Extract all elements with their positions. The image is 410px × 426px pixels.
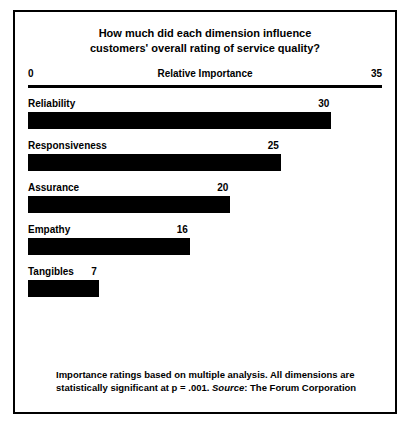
bar-value: 30 (318, 98, 331, 109)
bar-value: 16 (177, 224, 190, 235)
bar-meta: Responsiveness 25 (28, 140, 382, 154)
chart-inner: How much did each dimension influence cu… (28, 22, 382, 404)
axis-rule (28, 85, 382, 88)
bar-meta: Assurance 20 (28, 182, 382, 196)
bar-group-assurance: Assurance 20 (28, 182, 382, 213)
bar-group-tangibles: Tangibles 7 (28, 266, 382, 297)
bar-meta: Reliability 30 (28, 98, 382, 112)
axis-header: 0 Relative Importance 35 (28, 68, 382, 84)
bar-value: 7 (91, 266, 99, 277)
bar-rect (28, 238, 190, 255)
axis-max-label: 35 (371, 68, 382, 79)
bar-label: Tangibles (28, 266, 74, 277)
bar-label: Responsiveness (28, 140, 107, 151)
chart-footnote: Importance ratings based on multiple ana… (56, 368, 370, 394)
footnote-line-2-suffix: : The Forum Corporation (244, 382, 356, 393)
footnote-line-1: Importance ratings based on multiple ana… (56, 369, 354, 380)
footnote-line-2-prefix: statistically significant at p = .001. (56, 382, 212, 393)
bar-group-empathy: Empathy 16 (28, 224, 382, 255)
chart-title-line-1: How much did each dimension influence (42, 26, 368, 41)
bar-rect (28, 280, 99, 297)
bar-meta: Empathy 16 (28, 224, 382, 238)
axis-title: Relative Importance (28, 68, 382, 79)
chart-title-line-2: customers' overall rating of service qua… (42, 41, 368, 56)
bar-rect (28, 154, 281, 171)
bar-series: Reliability 30 Responsiveness 25 Assuran… (28, 98, 382, 297)
bar-label: Empathy (28, 224, 70, 235)
footnote-source-label: Source (212, 382, 244, 393)
bar-group-reliability: Reliability 30 (28, 98, 382, 129)
chart-title: How much did each dimension influence cu… (28, 22, 382, 56)
bar-rect (28, 112, 331, 129)
bar-rect (28, 196, 230, 213)
bar-value: 20 (217, 182, 230, 193)
bar-label: Assurance (28, 182, 79, 193)
bar-group-responsiveness: Responsiveness 25 (28, 140, 382, 171)
bar-label: Reliability (28, 98, 75, 109)
bar-meta: Tangibles 7 (28, 266, 382, 280)
bar-value: 25 (268, 140, 281, 151)
chart-card: How much did each dimension influence cu… (13, 10, 397, 414)
